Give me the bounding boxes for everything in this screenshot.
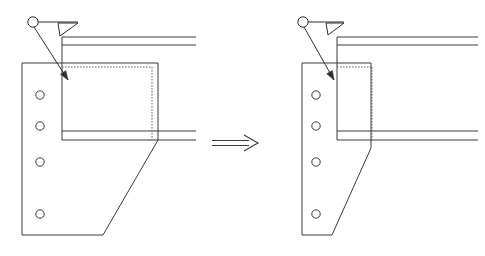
field-weld-circle-icon [298, 17, 308, 27]
beam-left [62, 37, 196, 140]
detail-right [298, 17, 478, 235]
bolt-hole [312, 122, 320, 130]
bolt-hole [36, 210, 44, 218]
bolt-hole [36, 122, 44, 130]
field-weld-circle-icon [28, 17, 38, 27]
beam-right [337, 37, 478, 140]
hidden-outline-right [337, 67, 372, 140]
shear-plate-outline-left [22, 63, 158, 235]
fillet-weld-triangle-icon [326, 23, 344, 35]
hidden-outline-left [62, 67, 152, 140]
bolt-hole [312, 91, 320, 99]
fillet-weld-triangle-icon [58, 23, 78, 36]
weld-leader-line [34, 27, 68, 80]
weld-symbol-left [28, 17, 78, 80]
bolt-hole-group-left [36, 91, 44, 218]
bolt-hole-group-right [312, 91, 320, 218]
detail-left [22, 17, 196, 235]
implies-arrow [212, 135, 258, 151]
diagram-canvas [0, 0, 485, 256]
bolt-hole [36, 91, 44, 99]
connection-detail-diagram [0, 0, 485, 256]
arrow-head-icon [244, 135, 258, 151]
bolt-hole [312, 210, 320, 218]
bolt-hole [312, 158, 320, 166]
weld-leader-arrowhead-icon [327, 71, 334, 80]
bolt-hole [36, 158, 44, 166]
